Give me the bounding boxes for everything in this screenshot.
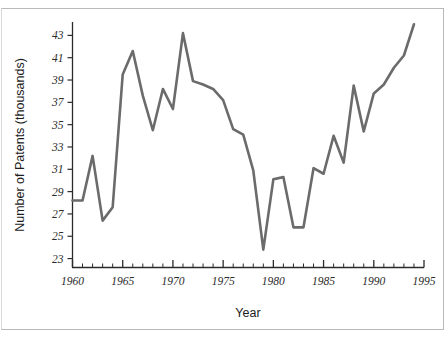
y-tick-label: 29 bbox=[52, 186, 64, 198]
y-tick-label: 41 bbox=[52, 52, 64, 64]
y-tick-label: 31 bbox=[51, 163, 64, 175]
x-axis-title: Year bbox=[235, 306, 260, 320]
y-tick-label: 37 bbox=[51, 96, 65, 108]
y-tick-label: 43 bbox=[52, 29, 64, 41]
x-tick-label: 1965 bbox=[111, 275, 134, 287]
y-axis-tick-labels: 2325272931333537394143 bbox=[51, 29, 65, 264]
patents-data-line bbox=[73, 24, 414, 249]
x-tick-label: 1995 bbox=[413, 275, 436, 287]
chart-figure: 2325272931333537394143 19601965197019751… bbox=[0, 0, 448, 340]
x-tick-label: 1985 bbox=[312, 275, 335, 287]
y-tick-label: 27 bbox=[52, 208, 65, 220]
y-tick-label: 33 bbox=[51, 141, 64, 153]
y-tick-label: 39 bbox=[51, 74, 64, 86]
patents-line-chart: 2325272931333537394143 19601965197019751… bbox=[0, 0, 448, 340]
axis-lines bbox=[72, 22, 424, 268]
x-axis-tick-labels: 19601965197019751980198519901995 bbox=[61, 275, 436, 287]
x-axis-major-ticks bbox=[73, 260, 425, 268]
x-tick-label: 1990 bbox=[362, 275, 385, 287]
y-axis-title: Number of Patents (thousands) bbox=[13, 58, 27, 232]
y-tick-label: 23 bbox=[52, 253, 64, 265]
y-tick-label: 25 bbox=[52, 230, 64, 242]
y-axis-ticks bbox=[68, 35, 73, 258]
x-tick-label: 1960 bbox=[61, 275, 84, 287]
x-tick-label: 1980 bbox=[262, 275, 285, 287]
x-tick-label: 1970 bbox=[161, 275, 184, 287]
x-tick-label: 1975 bbox=[212, 275, 235, 287]
y-tick-label: 35 bbox=[51, 119, 64, 131]
